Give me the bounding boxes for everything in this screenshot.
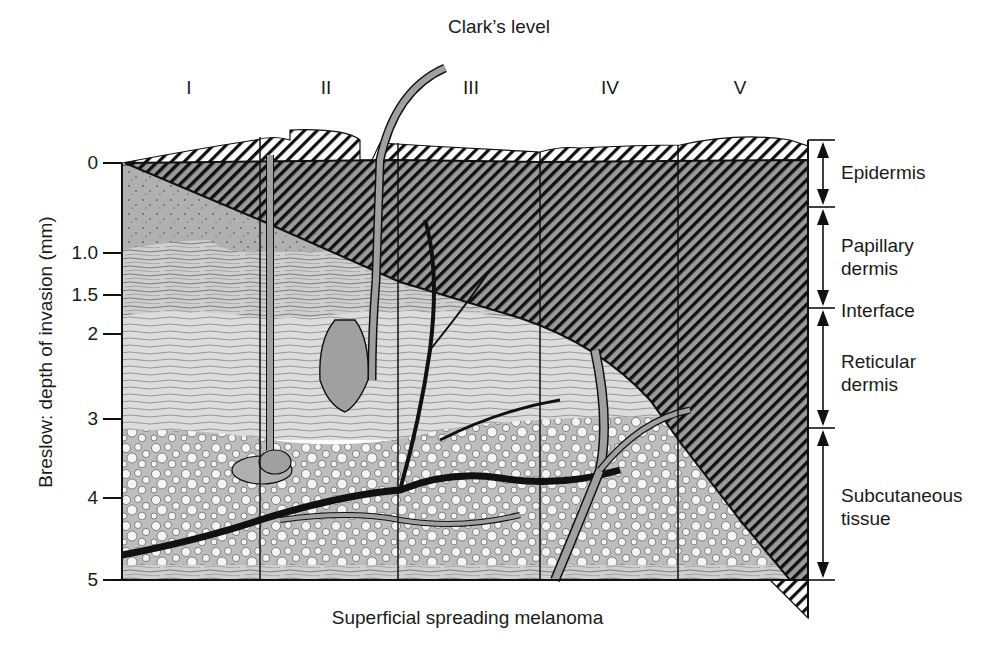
tick-5: 5 [38,569,98,591]
skin-cross-section-illustration [0,0,998,659]
breslow-ticks [103,163,122,580]
label-epidermis: Epidermis [841,161,925,184]
figure-caption: Superficial spreading melanoma [0,607,935,629]
label-subcutaneous-tissue: Subcutaneous tissue [841,484,963,530]
layer-brackets [808,140,835,580]
breslow-axis-label: Breslow: depth of invasion (mm) [35,216,57,487]
tick-4: 4 [38,487,98,509]
epidermis-surface [122,130,808,165]
tick-0: 0 [38,152,98,174]
label-reticular-dermis: Reticular dermis [841,350,916,396]
label-interface: Interface [841,299,915,322]
label-papillary-dermis: Papillary dermis [841,234,914,280]
